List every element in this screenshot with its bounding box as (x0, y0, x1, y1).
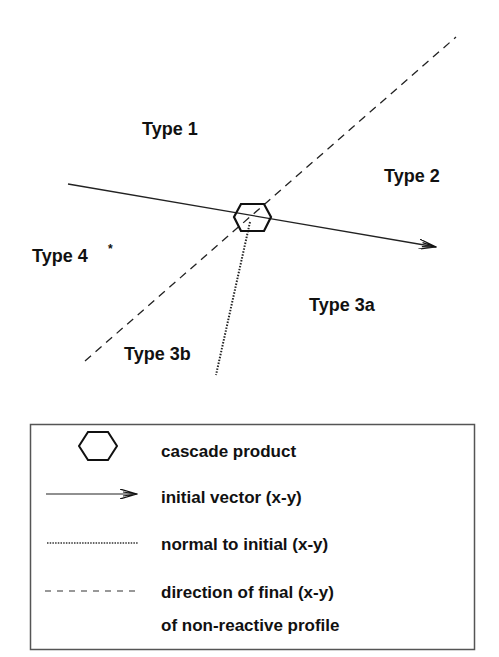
initial-vector-arrow (68, 184, 436, 247)
final-direction-dashed-line (85, 37, 456, 361)
region-label-type2: Type 2 (384, 166, 440, 186)
legend-label-final-direction: direction of final (x-y) (161, 583, 334, 602)
legend: cascade product initial vector (x-y) nor… (31, 425, 475, 650)
legend-label-initial-vector: initial vector (x-y) (161, 488, 302, 507)
region-label-type3b: Type 3b (124, 344, 191, 364)
legend-label-cascade-product: cascade product (161, 442, 296, 461)
region-label-type1: Type 1 (142, 119, 198, 139)
region-label-type4: Type 4 (32, 246, 88, 266)
region-label-type4-asterisk: * (108, 242, 113, 256)
legend-label-normal-to-initial: normal to initial (x-y) (161, 535, 328, 554)
region-label-type3a: Type 3a (309, 295, 376, 315)
legend-hexagon-icon (79, 432, 117, 460)
legend-label-final-direction-line2: of non-reactive profile (161, 616, 340, 635)
cascade-type-diagram: Type 1 Type 2 Type 3a Type 3b Type 4 * c… (0, 0, 499, 657)
normal-to-initial-dotted-line (216, 222, 250, 375)
